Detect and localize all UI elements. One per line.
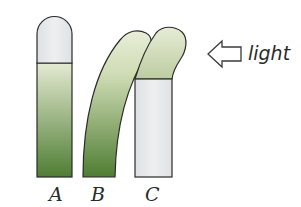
label-a: A	[47, 183, 63, 205]
left-arrow-icon	[208, 41, 241, 67]
label-b: B	[90, 183, 105, 205]
specimen-c-sheath	[135, 79, 172, 177]
label-c: C	[145, 183, 160, 205]
specimen-a	[37, 17, 72, 178]
specimen-a-cap	[37, 17, 72, 64]
light-label: light	[248, 42, 292, 64]
specimen-a-stem	[37, 63, 72, 177]
diagram-canvas: light A B C	[0, 0, 301, 207]
